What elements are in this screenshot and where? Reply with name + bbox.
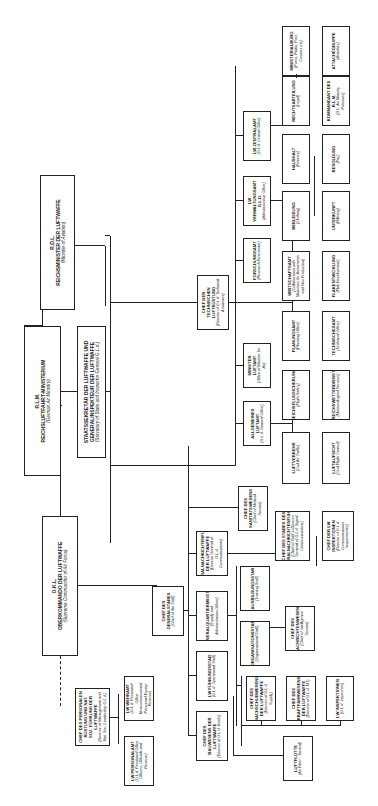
connector: [24, 325, 42, 326]
box-technische: CHEF DER TECHNISCHEN LUFTRÜSTUNG (Direct…: [197, 275, 229, 330]
connector: [188, 507, 238, 508]
connector: [233, 755, 283, 756]
connector: [270, 627, 285, 628]
box-rlm: R.L.M. REICHSLUFTFAHRT-MINISTERIUM (Germ…: [24, 326, 61, 476]
connector: [316, 536, 317, 566]
box-attache: ATTACHÉGRUPPE (Attachés): [322, 26, 350, 76]
box-minister-luftamt: MINISTER LUFTAMT (Office of Minister for…: [243, 343, 271, 388]
box-kommandant: KOMMANDANT DES R.L.M. (G.L. Air Ministry…: [322, 76, 350, 126]
connector: [105, 246, 106, 306]
connector: [340, 721, 341, 726]
connector: [188, 446, 189, 736]
box-kraftfahr: CHEF DES KRAFTFAHRWESENS DER LUFTWAFFE (…: [286, 676, 316, 721]
connector: [314, 156, 315, 216]
box-nachschub: CHEF DES NACHSCHUBWESENS DER LUFTWAFFE (…: [246, 676, 276, 721]
org-chart: R.d.L. REICHSMINISTER DER LUFTWAFFE (Min…: [0, 0, 378, 806]
box-luftflotte: LUFTFLOTTE (Air Fleet - Tactical): [283, 736, 313, 781]
box-fuehrungsstab: LW FÜHRUNGSSTAB (G.L.d. Operational Staf…: [196, 651, 228, 701]
connector: [61, 391, 77, 392]
box-gennachr: GENERALNACHRICHTENFÜHRER DER LUFTWAFFE (…: [196, 531, 228, 576]
box-ausbildung: AUSBILDUNGSSTAB (Training Staff): [240, 566, 270, 611]
connector: [110, 302, 197, 303]
connector: [241, 676, 242, 746]
connector: [296, 74, 297, 78]
dashed-connector: [60, 656, 61, 706]
connector: [228, 553, 275, 554]
box-besoldung: BESOLDUNG (Pay): [322, 134, 350, 184]
connector: [188, 553, 196, 554]
box-stabgennachr: CHEF DES STABES DES GENERALNACHRICHTENFÜ…: [275, 511, 310, 561]
connector: [110, 717, 118, 718]
box-wirtschaft: WIRTSCHAFTSAMT (Collaboration with Minis…: [282, 251, 310, 301]
box-luftverkehr: LUFTVERKEHR (Civil Air Traffic): [282, 432, 310, 484]
box-zentral: LW ZENTRALAMT (G.L.d. Central Office): [243, 111, 271, 161]
connector: [261, 721, 262, 726]
connector: [61, 405, 62, 406]
box-recht: RECHTSABTEILUNG (Legal): [282, 76, 310, 126]
box-technischesamt: TECHNISCHESAMT (Technical Office): [322, 311, 350, 361]
box-staats: STAATSSEKRETÄR DER LUFTWAFFE UND GENERAL…: [77, 326, 106, 458]
box-verwaltung: LW VERWALTUNGSAMT G.L.d. (Administrative…: [243, 176, 271, 226]
box-inspektionen-chef: CHEF DER LW INSPEKTIONEN (Director of G.…: [322, 511, 354, 561]
connector: [78, 585, 157, 586]
box-rdl: R.d.L. REICHSMINISTER DER LUFTWAFFE (Min…: [40, 175, 75, 310]
connector: [105, 235, 110, 236]
box-unterkunft: UNTERKUNFT (Billeting): [322, 191, 350, 241]
box-wehramt: LW WEHRAMT (G.L.d. Personnel Office Nonc…: [124, 676, 154, 721]
connector: [235, 136, 236, 424]
box-bekleidung: BEKLEIDUNG (Clothing): [282, 191, 310, 241]
box-sanitaet: CHEF DES SANITÄTSWESENS (Chief of Medica…: [238, 486, 268, 531]
connector: [188, 735, 196, 736]
connector: [236, 566, 237, 726]
box-bauwesen: CHEF DES BAUWESENS DER LUFTWAFFE (Direct…: [196, 711, 228, 761]
box-flakentw: FLAKENTWICKLUNG (Flak Development): [322, 251, 350, 301]
connector: [42, 310, 43, 326]
box-wetter: REICHSWETTERDIENST (Meteorological Servi…: [322, 370, 350, 420]
box-organisation: ORGANISATIONSSTAB (Organisational Staff): [240, 621, 270, 666]
connector: [271, 423, 292, 424]
connector: [241, 725, 341, 726]
box-lwinspektionen: LW INSPEKTIONEN (G.L.d. Inspectors): [326, 676, 354, 721]
box-okl: O.K.L. OBERKOMMANDO DER LUFTWAFFE (Supre…: [42, 516, 78, 656]
box-flugsicherung: REICHSFLUGSICHERUNG (Flight Safety): [282, 370, 310, 420]
box-planung: PLANUNGSAMT (Planning Office): [282, 311, 310, 361]
connector: [235, 302, 292, 303]
connector: [110, 236, 111, 543]
connector: [233, 696, 234, 756]
connector: [110, 465, 235, 466]
connector: [118, 694, 119, 744]
connector: [188, 615, 196, 616]
connector: [60, 476, 61, 516]
box-generalstab: CHEF DES GENERALSTABES (Chief of the Sta…: [152, 586, 184, 636]
box-allgemeines: ALLGEMEINES LUFTAMT (G.L.d. General Offi…: [243, 401, 271, 446]
box-luftaufsicht: LUFTAUFSICHT (Civil Flight Control): [322, 432, 350, 484]
box-ministerialburo: MINISTERIALBÜRO (Press, Radio, Post, Cou…: [282, 26, 310, 76]
box-haushalt: HAUSHALT (Finance): [282, 134, 310, 184]
box-nachrichten: CHEF DES NACHRICHTENWESENS (Chief of Int…: [285, 606, 315, 651]
connector: [301, 721, 302, 726]
connector: [228, 615, 236, 616]
box-personal: CHEF DES PERSONALEN RÜSTUNG UND NAT. SOZ…: [75, 688, 110, 746]
connector: [188, 675, 196, 676]
box-genquartier: GENERALQUARTIERMEISTER (Supply and Admin…: [196, 591, 228, 641]
box-personalamt: LW PERSONALAMT (G.L.d. Personnel Office …: [124, 736, 154, 786]
connector: [75, 245, 105, 246]
connector: [106, 391, 110, 392]
box-forschung: FORSCHUNGSAMT (Research Directorate): [243, 238, 271, 283]
